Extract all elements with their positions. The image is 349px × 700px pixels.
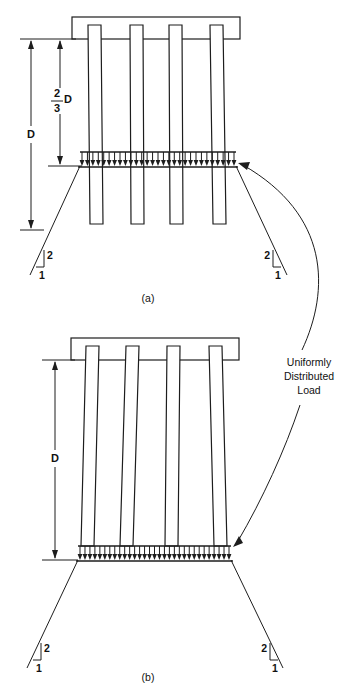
udl-arrow-a-head	[161, 160, 166, 166]
slope-b-right-vertical: 2	[261, 642, 267, 654]
udl-arrow-b-head	[112, 554, 117, 560]
udl-arrow-b-head	[212, 554, 217, 560]
udl-arrow-b-head	[172, 554, 177, 560]
udl-label-line-3: Load	[297, 384, 321, 396]
udl-arrow-b-head	[78, 554, 83, 560]
slope-a-right-vertical: 2	[264, 249, 270, 261]
pile-b-2	[120, 346, 139, 546]
udl-arrow-a-head	[145, 160, 150, 166]
udl-arrow-b-head	[88, 554, 93, 560]
udl-arrow-b-head	[202, 554, 207, 560]
udl-arrow-a-head	[123, 160, 128, 166]
udl-arrow-a-head	[204, 160, 209, 166]
udl-arrow-b-head	[182, 554, 187, 560]
dimension-a-fraction-suffix: D	[64, 93, 72, 105]
spread-line-a-right	[236, 166, 287, 275]
pile-b-1	[81, 346, 99, 546]
pile-a-1	[88, 25, 103, 224]
udl-arrow-b-head	[197, 554, 202, 560]
slope-b-right-horizontal: 1	[272, 662, 278, 674]
udl-arrow-b-head	[102, 554, 107, 560]
pile-b-4	[209, 346, 227, 546]
udl-arrow-b-head	[207, 554, 212, 560]
slope-marker-b-left: 2 1	[33, 642, 50, 674]
udl-arrow-a-head	[199, 160, 204, 166]
udl-arrow-b-head	[192, 554, 197, 560]
udl-label-line-2: Distributed	[284, 370, 334, 382]
udl-arrow-b-head	[222, 554, 227, 560]
udl-arrow-b-head	[177, 554, 182, 560]
slope-a-left-vertical: 2	[47, 249, 53, 261]
udl-arrow-b-head	[142, 554, 147, 560]
slope-marker-a-left: 2 1	[36, 249, 53, 281]
panel-a: 2 1 2 1 D 2 3 D	[20, 17, 287, 304]
dimension-two-thirds-D-a: 2 3 D	[50, 40, 74, 165]
pile-a-3	[169, 25, 183, 224]
udl-arrow-a-head	[107, 160, 112, 166]
udl-arrow-b-head	[157, 554, 162, 560]
engineering-figure: 2 1 2 1 D 2 3 D	[0, 0, 349, 700]
udl-arrow-b-head	[107, 554, 112, 560]
udl-arrow-b-head	[187, 554, 192, 560]
udl-arrow-a-head	[112, 160, 117, 166]
udl-arrow-a-head	[194, 160, 199, 166]
dimension-a-overall-label: D	[27, 128, 35, 140]
pile-group-b	[81, 346, 227, 546]
panel-a-caption: (a)	[142, 292, 155, 304]
slope-a-right-horizontal: 1	[275, 269, 281, 281]
udl-arrow-a-head	[232, 160, 237, 166]
udl-band-b	[76, 546, 233, 561]
udl-arrow-b-head	[137, 554, 142, 560]
udl-arrow-b-head	[122, 554, 127, 560]
udl-arrow-b-head	[132, 554, 137, 560]
callout-arrowhead-upper	[238, 162, 250, 170]
udl-arrow-b-head	[117, 554, 122, 560]
udl-callout: Uniformly Distributed Load	[233, 162, 334, 547]
udl-arrow-a-head	[80, 160, 85, 166]
udl-arrow-b-head	[217, 554, 222, 560]
udl-arrow-b-head	[167, 554, 172, 560]
pile-a-2	[130, 25, 144, 224]
udl-arrow-b-head	[93, 554, 98, 560]
slope-marker-a-right: 2 1	[264, 249, 281, 281]
udl-arrow-a-head	[150, 160, 155, 166]
dimension-a-fraction-numerator: 2	[54, 87, 60, 99]
udl-arrow-b-head	[97, 554, 102, 560]
dimension-D-b: D	[48, 361, 62, 559]
pile-a-4	[210, 25, 226, 224]
slope-a-left-horizontal: 1	[39, 269, 45, 281]
udl-arrow-a-head	[118, 160, 123, 166]
spread-line-a-left	[30, 166, 80, 275]
callout-leader-lower	[238, 405, 300, 541]
udl-arrow-b-head	[227, 554, 232, 560]
udl-arrow-a-head	[226, 160, 231, 166]
udl-label-line-1: Uniformly	[287, 356, 332, 368]
pile-group-a	[88, 25, 226, 224]
callout-leader-upper	[243, 165, 319, 350]
spread-line-b-left	[27, 560, 78, 668]
spread-line-b-right	[231, 560, 283, 668]
panel-b: 2 1 2 1 D (b)	[27, 338, 283, 683]
udl-arrow-b-head	[162, 554, 167, 560]
udl-arrow-b-head	[147, 554, 152, 560]
pile-b-3	[165, 346, 180, 546]
slope-b-left-horizontal: 1	[36, 662, 42, 674]
callout-arrowhead-lower	[233, 536, 243, 547]
udl-arrow-b-head	[83, 554, 88, 560]
panel-b-caption: (b)	[142, 671, 155, 683]
dimension-D-a: D	[24, 40, 38, 229]
udl-arrow-a-head	[183, 160, 188, 166]
udl-arrow-b-head	[152, 554, 157, 560]
udl-arrow-a-head	[188, 160, 193, 166]
slope-b-left-vertical: 2	[44, 642, 50, 654]
udl-arrow-b-head	[127, 554, 132, 560]
dimension-a-fraction-denominator: 3	[54, 102, 60, 114]
dimension-b-overall-label: D	[51, 452, 59, 464]
slope-marker-b-right: 2 1	[261, 642, 278, 674]
udl-arrow-a-head	[156, 160, 161, 166]
udl-arrows-b	[78, 546, 232, 560]
